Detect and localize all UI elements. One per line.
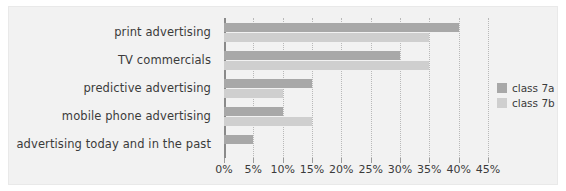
legend-swatch-icon — [497, 98, 507, 108]
category-label: print advertising — [10, 18, 218, 46]
legend-item-class-7b[interactable]: class 7b — [497, 97, 555, 109]
category-axis-labels: print advertising TV commercials predict… — [10, 18, 218, 158]
bar[interactable] — [224, 89, 283, 98]
bar-group — [224, 130, 488, 158]
bar[interactable] — [224, 33, 429, 42]
bar[interactable] — [224, 135, 253, 144]
legend-swatch-icon — [497, 83, 507, 93]
x-axis-tick-label: 25% — [358, 163, 382, 176]
bar[interactable] — [224, 107, 283, 116]
bar-group — [224, 18, 488, 46]
bar[interactable] — [224, 79, 312, 88]
category-label: mobile phone advertising — [10, 102, 218, 130]
legend-item-class-7a[interactable]: class 7a — [497, 82, 555, 94]
x-axis-tick-label: 0% — [215, 163, 232, 176]
legend: class 7a class 7b — [497, 82, 555, 109]
bar[interactable] — [224, 117, 312, 126]
category-label: TV commercials — [10, 46, 218, 74]
category-label: predictive advertising — [10, 74, 218, 102]
bar-group — [224, 46, 488, 74]
x-axis-tick-labels: 0%5%10%15%20%25%30%35%40%45% — [224, 163, 488, 181]
bar-chart: print advertising TV commercials predict… — [0, 0, 566, 191]
x-axis-tick-label: 45% — [476, 163, 500, 176]
x-axis-tick-label: 40% — [446, 163, 470, 176]
x-axis-tick-label: 20% — [329, 163, 353, 176]
bar-group — [224, 74, 488, 102]
x-axis-tick-label: 15% — [300, 163, 324, 176]
x-axis-tick-label: 5% — [245, 163, 262, 176]
bar[interactable] — [224, 51, 400, 60]
category-label: advertising today and in the past — [10, 130, 218, 158]
bar[interactable] — [224, 23, 459, 32]
bar-rows — [224, 18, 488, 158]
bar[interactable] — [224, 61, 429, 70]
plot-area — [224, 18, 488, 158]
bar-group — [224, 102, 488, 130]
legend-label: class 7a — [512, 82, 555, 94]
x-axis-tick-label: 35% — [417, 163, 441, 176]
x-axis-tick-label: 10% — [270, 163, 294, 176]
x-axis-tick-label: 30% — [388, 163, 412, 176]
legend-label: class 7b — [512, 97, 555, 109]
